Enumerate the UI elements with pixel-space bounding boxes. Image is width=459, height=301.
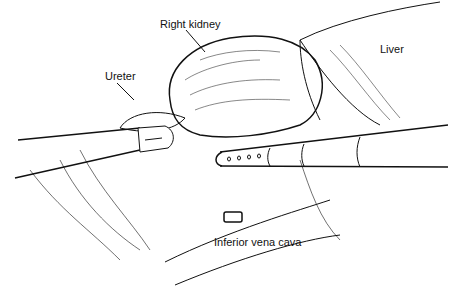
grasper-instrument (15, 126, 173, 178)
suction-irrigator-instrument (216, 125, 448, 167)
liver-shape (300, 2, 440, 125)
ivc-shape (165, 200, 330, 262)
label-inferior-vena-cava: Inferior vena cava (214, 236, 301, 248)
label-liver: Liver (380, 43, 404, 55)
kidney-shape (169, 36, 322, 137)
illustration: Right kidney Liver Ureter Inferior vena … (0, 0, 459, 301)
vascular-clip (224, 212, 242, 222)
label-ureter: Ureter (105, 70, 136, 82)
label-right-kidney: Right kidney (160, 18, 221, 30)
